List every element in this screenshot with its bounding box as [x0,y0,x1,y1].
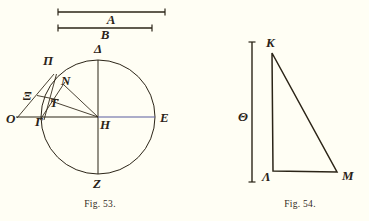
figures-canvas: A B Δ Π [0,0,369,221]
point-label-pi: Π [42,53,54,68]
point-label-delta: Δ [93,41,102,56]
point-label-nu: N [60,73,71,88]
point-label-gamma: Γ [34,114,43,129]
fig-53-group: A B Δ Π [6,9,169,210]
point-label-lambda: Λ [261,169,271,184]
point-label-epsilon: E [159,110,169,125]
point-label-mu: M [341,168,354,183]
figure-page: A B Δ Π [0,0,369,221]
segment-B-ruler: B [58,25,152,43]
chord-eta-nu [64,85,98,117]
chord-eta-tau [51,101,98,117]
point-label-eta: H [99,117,111,132]
fig-54-group: Θ K Λ M Fig. 54. [238,35,354,209]
point-label-tau: T [50,95,59,110]
segment-Theta-ruler: Θ [238,42,256,182]
point-label-omicron: O [6,111,16,126]
point-label-zeta: Z [92,176,101,191]
point-label-kappa: K [265,35,276,50]
segment-A-ruler: A [58,9,165,28]
fig-54-caption: Fig. 54. [284,199,316,209]
segment-Theta-label: Θ [238,109,248,124]
segment-B-label: B [100,27,110,42]
segment-A-label: A [106,12,116,27]
point-label-xi: Ξ [23,88,32,103]
fig-53-caption: Fig. 53. [84,199,116,209]
triangle-kappa-lambda-mu [272,53,337,172]
